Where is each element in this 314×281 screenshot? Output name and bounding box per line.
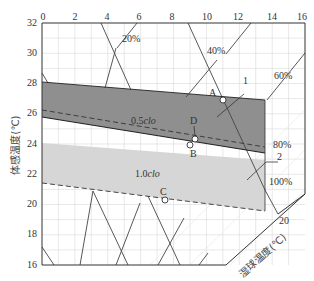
y-tick: 32 [27, 17, 37, 28]
point-a [220, 97, 226, 103]
y-tick: 16 [27, 259, 37, 270]
rh-20-label: 20% [122, 33, 140, 44]
y-tick: 26 [27, 107, 37, 118]
rh-60-label: 60% [274, 70, 292, 81]
rh-100-label: 100% [269, 176, 292, 187]
x-tick: 4 [105, 11, 110, 22]
callout-2-label: 2 [277, 151, 282, 162]
point-d-label: D [190, 115, 197, 126]
callout-1-label: 1 [243, 75, 248, 86]
zone-upper-label: 0.5clo [131, 115, 156, 126]
x-tick: 12 [233, 11, 243, 22]
point-d [192, 136, 198, 142]
y-tick: 18 [27, 228, 37, 239]
comfort-chart: 0 2 4 6 8 10 12 14 16 32 30 28 26 24 22 … [0, 0, 314, 281]
y-tick: 28 [27, 77, 37, 88]
diag-tick: 20 [279, 215, 289, 226]
grid [42, 23, 305, 265]
point-c-label: C [160, 186, 167, 197]
zone-lower-label: 1.0clo [135, 168, 160, 179]
x-tick: 6 [137, 11, 142, 22]
diag-axis-title: 湿球温度(℃) [236, 231, 288, 279]
y-axis-title: 体感温度(℃) [9, 115, 21, 174]
rh-80-label: 80% [273, 139, 291, 150]
y-tick: 30 [27, 47, 37, 58]
x-tick: 10 [202, 11, 212, 22]
x-tick: 2 [73, 11, 78, 22]
x-tick: 8 [170, 11, 175, 22]
diag-cut [278, 194, 305, 214]
x-tick: 14 [267, 11, 277, 22]
y-tick: 24 [27, 138, 37, 149]
rh-40-label: 40% [207, 45, 225, 56]
y-tick: 22 [27, 168, 37, 179]
point-c [162, 197, 168, 203]
point-a-label: A [209, 87, 217, 98]
point-b-label: B [190, 148, 197, 159]
x-tick: 16 [297, 11, 307, 22]
x-tick: 0 [41, 11, 46, 22]
y-tick: 20 [27, 198, 37, 209]
